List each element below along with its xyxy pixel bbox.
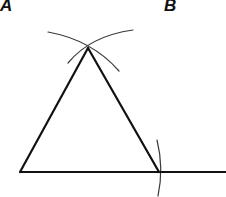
construction-diagram [0, 0, 226, 197]
apex-arc-from-right [68, 30, 133, 63]
apex-arc-from-left [48, 32, 119, 71]
triangle-left-side [20, 48, 88, 172]
triangle-right-side [88, 48, 159, 172]
